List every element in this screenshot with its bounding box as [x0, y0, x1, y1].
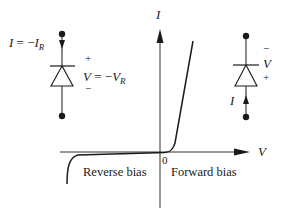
origin-label: 0	[162, 154, 168, 166]
plus-sign: +	[263, 71, 269, 83]
current-label: I	[229, 93, 235, 108]
diode-triangle-icon	[51, 66, 73, 86]
reverse-bias-label: Reverse bias	[83, 165, 147, 179]
terminal-dot-bottom	[59, 113, 65, 119]
plus-sign: +	[85, 52, 91, 64]
terminal-dot-bottom	[243, 114, 249, 120]
left-diode-circuit: I = −IR + V = −VR −	[8, 31, 126, 119]
diode-triangle-icon	[235, 65, 257, 86]
minus-sign: −	[263, 42, 269, 54]
minus-sign: −	[85, 82, 91, 94]
forward-bias-label: Forward bias	[171, 165, 237, 179]
diode-iv-diagram: I V 0 Reverse bias Forward bias I = −IR …	[0, 0, 282, 209]
current-arrow-up-icon	[243, 95, 249, 104]
right-diode-circuit: − V + I	[229, 33, 273, 120]
y-axis-label: I	[155, 7, 161, 22]
current-arrow-down-icon	[59, 40, 65, 49]
y-axis-arrow-icon	[157, 29, 164, 43]
x-axis-arrow-icon	[234, 149, 250, 156]
voltage-label: V	[263, 56, 273, 71]
x-axis-label: V	[258, 144, 268, 159]
current-label: I = −IR	[8, 35, 45, 52]
